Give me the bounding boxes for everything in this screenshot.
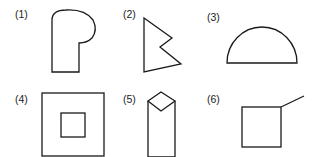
outer-square bbox=[42, 93, 104, 156]
figure-4-label: (4) bbox=[15, 93, 28, 105]
figure-canvas: (1) (2) (3) (4) (5) (6) bbox=[0, 0, 320, 157]
figure-3: (3) bbox=[207, 11, 297, 63]
figure-6-label: (6) bbox=[207, 93, 220, 105]
p-shape bbox=[52, 10, 95, 72]
semicircle bbox=[227, 27, 297, 63]
figure-4: (4) bbox=[15, 93, 104, 156]
tall-rectangle bbox=[148, 101, 175, 157]
figure-5: (5) bbox=[123, 92, 175, 157]
notched-triangle bbox=[144, 18, 181, 72]
figure-2-label: (2) bbox=[123, 8, 136, 20]
figure-6: (6) bbox=[207, 93, 304, 147]
figure-5-label: (5) bbox=[123, 93, 136, 105]
diamond bbox=[148, 92, 175, 111]
inner-square bbox=[61, 113, 85, 137]
diagonal-line bbox=[281, 96, 304, 107]
figure-2: (2) bbox=[123, 8, 181, 72]
figure-1-label: (1) bbox=[15, 8, 28, 20]
figure-3-label: (3) bbox=[207, 11, 220, 23]
figure-1: (1) bbox=[15, 8, 95, 72]
square bbox=[242, 107, 281, 147]
